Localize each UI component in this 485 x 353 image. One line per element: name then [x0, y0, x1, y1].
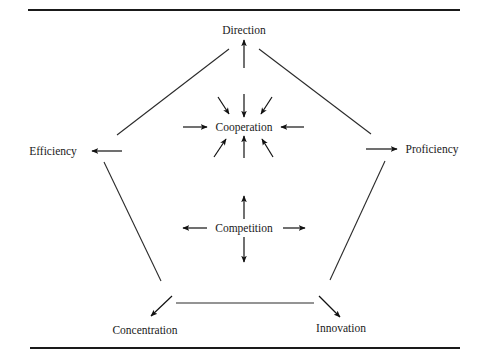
label-cooperation: Cooperation	[216, 121, 273, 134]
coop-arrow-top-right	[261, 97, 272, 114]
label-concentration: Concentration	[112, 324, 177, 336]
coop-arrow-top-left	[218, 97, 229, 114]
diagram-canvas: Direction Efficiency Proficiency Coopera…	[0, 0, 485, 353]
label-direction: Direction	[222, 24, 266, 36]
edge-efficiency-concentration	[104, 162, 161, 281]
pentagon-edges	[104, 49, 385, 303]
edge-direction-proficiency	[259, 49, 371, 134]
edge-proficiency-innovation	[330, 161, 385, 280]
arrow-to-innovation	[319, 296, 340, 317]
coop-arrow-bottom-left	[214, 139, 226, 157]
label-competition: Competition	[215, 222, 273, 235]
outer-arrows	[92, 40, 397, 317]
label-proficiency: Proficiency	[405, 143, 458, 156]
coop-arrow-bottom-right	[262, 139, 273, 157]
label-efficiency: Efficiency	[29, 145, 77, 158]
arrow-to-concentration	[151, 296, 172, 316]
label-innovation: Innovation	[316, 322, 366, 334]
edge-direction-efficiency	[117, 49, 229, 135]
